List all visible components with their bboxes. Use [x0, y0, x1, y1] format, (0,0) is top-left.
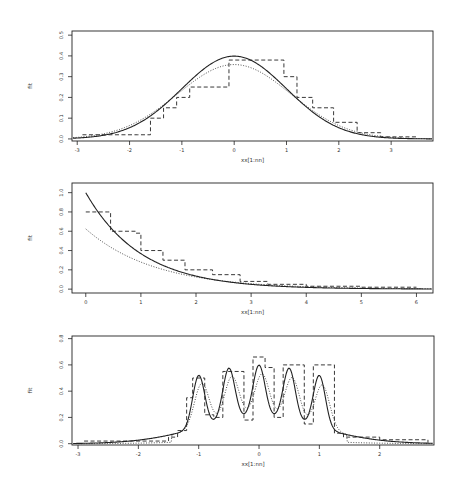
x-tick-label: -3 [76, 451, 81, 457]
x-tick-label: 2 [337, 147, 340, 153]
plot-panel-claw: -3-2-10120.00.20.40.60.8xx[1:nn]fit [27, 335, 434, 467]
plot-panel-normal: -3-2-101230.00.10.20.30.40.5xx[1:nn]fit [27, 31, 433, 163]
y-tick-label: 0.2 [58, 93, 64, 101]
series-dotted-line [73, 65, 432, 139]
plot-frame [72, 336, 434, 445]
y-axis-title: fit [27, 82, 33, 88]
x-axis-title: xx[1:nn] [241, 309, 264, 315]
series-dotted-line [86, 229, 432, 289]
x-axis-title: xx[1:nn] [241, 461, 264, 467]
y-tick-label: 1.0 [58, 189, 64, 197]
x-tick-label: 1 [318, 451, 321, 457]
x-tick-label: -3 [75, 147, 80, 153]
x-tick-label: -2 [136, 451, 141, 457]
y-tick-label: 0.4 [58, 52, 64, 60]
x-tick-label: -2 [127, 147, 132, 153]
y-tick-label: 0.2 [58, 266, 64, 274]
y-tick-label: 0.3 [58, 73, 64, 81]
y-tick-label: 0.4 [58, 387, 64, 395]
x-tick-label: 1 [139, 299, 142, 305]
y-tick-label: 0.5 [58, 31, 64, 39]
y-tick-label: 0.0 [58, 440, 64, 448]
plot-frame [72, 183, 433, 293]
x-axis-title: xx[1:nn] [241, 157, 264, 163]
x-tick-label: 0 [257, 451, 260, 457]
x-tick-label: 0 [233, 147, 236, 153]
y-tick-label: 0.8 [58, 208, 64, 216]
x-tick-label: 2 [194, 299, 197, 305]
x-tick-label: 1 [285, 147, 288, 153]
x-tick-label: -1 [196, 451, 201, 457]
plot-panel-exponential: 01234560.00.20.40.60.81.0xx[1:nn]fit [27, 183, 433, 315]
x-tick-label: 5 [360, 299, 363, 305]
x-tick-label: 6 [415, 299, 418, 305]
x-tick-label: 3 [250, 299, 253, 305]
y-tick-label: 0.0 [58, 135, 64, 143]
x-tick-label: -1 [179, 147, 184, 153]
y-tick-label: 0.6 [58, 227, 64, 235]
plot-frame [72, 31, 433, 141]
series-solid-line [73, 365, 433, 443]
y-axis-title: fit [27, 234, 33, 240]
y-tick-label: 0.8 [58, 335, 64, 343]
series-dashed-line [82, 60, 417, 137]
x-tick-label: 3 [390, 147, 393, 153]
y-axis-title: fit [27, 387, 33, 393]
y-tick-label: 0.6 [58, 361, 64, 369]
series-solid-line [86, 193, 432, 289]
x-tick-label: 2 [378, 451, 381, 457]
y-tick-label: 0.1 [58, 114, 64, 122]
x-tick-label: 4 [305, 299, 308, 305]
x-tick-label: 0 [84, 299, 87, 305]
y-tick-label: 0.4 [58, 247, 64, 255]
y-tick-label: 0.0 [58, 285, 64, 293]
figure-canvas: -3-2-101230.00.10.20.30.40.5xx[1:nn]fit … [0, 0, 457, 481]
y-tick-label: 0.2 [58, 413, 64, 421]
